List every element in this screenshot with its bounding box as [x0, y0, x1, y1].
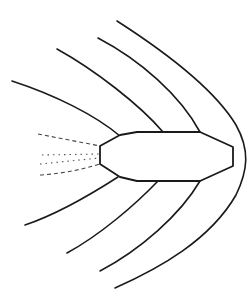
upper-streamline-2 [57, 49, 163, 132]
lower-streamline-3 [100, 181, 200, 271]
upper-streamline-1 [12, 81, 120, 136]
wake-upper-dashed-line [38, 134, 100, 146]
wake-dotted-line-2 [40, 158, 100, 164]
lower-streamline-1 [25, 177, 118, 225]
diagram-canvas [0, 0, 252, 298]
blunt-body [100, 132, 233, 181]
flow-diagram [0, 0, 252, 298]
wake-dotted-line-1 [42, 154, 100, 155]
wake-lower-dashed-line [40, 164, 100, 175]
